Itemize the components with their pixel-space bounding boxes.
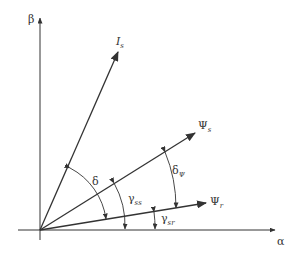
beta-axis-label: β [28, 14, 34, 25]
is-label: Is [116, 36, 124, 50]
arc-gamma-ss [114, 183, 125, 229]
gamma-ss-label: γss [128, 193, 142, 207]
alpha-axis-label: α [277, 236, 284, 247]
arc-delta-psi [165, 152, 176, 208]
psi-s-label: Ψs [198, 120, 211, 134]
arc-delta [70, 168, 106, 219]
psi-r-label: Ψr [210, 196, 223, 210]
vector-diagram [0, 0, 300, 263]
vector-is [40, 52, 118, 230]
delta-psi-label: δΨ [172, 165, 185, 179]
delta-label: δ [92, 176, 99, 187]
arc-gamma-sr [154, 212, 155, 229]
gamma-sr-label: γsr [161, 213, 175, 227]
